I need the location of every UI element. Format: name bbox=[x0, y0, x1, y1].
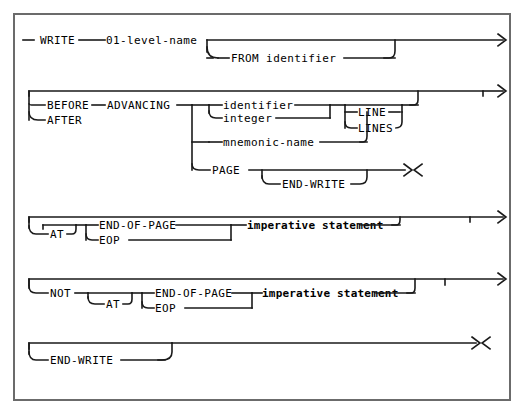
rail-after-lead bbox=[29, 112, 45, 120]
railroad-diagram: WRITE 01-level-name FROM identifier bbox=[0, 0, 524, 414]
rail-endwrite1-up bbox=[351, 170, 367, 184]
token-not: NOT bbox=[50, 287, 71, 300]
token-at-1: AT bbox=[50, 228, 64, 241]
rail-line5-bypass bbox=[29, 343, 172, 349]
syntax-diagram-page: WRITE 01-level-name FROM identifier bbox=[0, 0, 524, 414]
token-before: BEFORE bbox=[47, 99, 89, 112]
token-page: PAGE bbox=[212, 164, 240, 177]
token-end-of-page-1: END-OF-PAGE bbox=[99, 219, 176, 232]
terminator-arrow-left-1 bbox=[414, 164, 422, 176]
rail-line2-bypass bbox=[29, 91, 483, 96]
token-integer: integer bbox=[223, 112, 272, 125]
token-advancing: ADVANCING bbox=[107, 99, 170, 112]
terminator-arrow-left-2 bbox=[482, 337, 490, 349]
line-4-group: NOT AT END-OF-PAGE EOP imperative statem… bbox=[29, 273, 506, 315]
rail-at1-lead bbox=[29, 226, 48, 234]
token-lines: LINES bbox=[358, 122, 393, 135]
rail-eop2-lead-bot bbox=[142, 302, 154, 308]
rail-page-lead bbox=[192, 164, 210, 170]
rail-at2-up bbox=[123, 293, 132, 304]
line-5-group: END-WRITE bbox=[29, 337, 490, 367]
rail-from-corner-bl bbox=[207, 47, 218, 58]
rail-integer-lead bbox=[209, 111, 222, 118]
rail-before-lead bbox=[29, 104, 45, 105]
line-2-group: BEFORE AFTER ADVANCING identifier intege… bbox=[29, 85, 506, 191]
rail-at2-lead bbox=[88, 297, 104, 304]
rail-endwrite2-lead bbox=[29, 352, 48, 360]
rail-not-lead bbox=[29, 286, 48, 293]
token-after: AFTER bbox=[47, 114, 82, 127]
token-end-write-1: END-WRITE bbox=[282, 178, 345, 191]
token-line: LINE bbox=[358, 106, 386, 119]
rail-lineopt-up bbox=[410, 91, 418, 105]
rail-endwrite1-lead bbox=[262, 176, 280, 184]
token-eop-1: EOP bbox=[99, 234, 120, 247]
token-end-of-page-2: END-OF-PAGE bbox=[155, 287, 232, 300]
rail-imp1-up bbox=[392, 217, 400, 225]
token-write: WRITE bbox=[40, 34, 75, 47]
rail-lines-lead bbox=[345, 122, 357, 128]
rail-from-corner-tr bbox=[384, 40, 395, 58]
token-eop-2: EOP bbox=[155, 302, 176, 315]
line-3-group: AT END-OF-PAGE EOP imperative statement bbox=[29, 211, 506, 247]
token-from-identifier: FROM identifier bbox=[231, 52, 336, 65]
token-at-2: AT bbox=[106, 298, 120, 311]
rail-lines-tail bbox=[396, 112, 402, 128]
rail-line4-bypass bbox=[29, 279, 445, 285]
rail-at1-up bbox=[67, 225, 76, 234]
rail-eop1-lead-bot bbox=[86, 234, 98, 240]
rail-imp2-up bbox=[407, 279, 415, 293]
token-identifier: identifier bbox=[223, 99, 293, 112]
line-1-group: WRITE 01-level-name FROM identifier bbox=[23, 34, 506, 65]
token-end-write-2: END-WRITE bbox=[50, 354, 113, 367]
token-level-name: 01-level-name bbox=[106, 34, 197, 47]
token-mnemonic-name: mnemonic-name bbox=[223, 136, 314, 149]
rail-endwrite2-up bbox=[158, 343, 172, 360]
